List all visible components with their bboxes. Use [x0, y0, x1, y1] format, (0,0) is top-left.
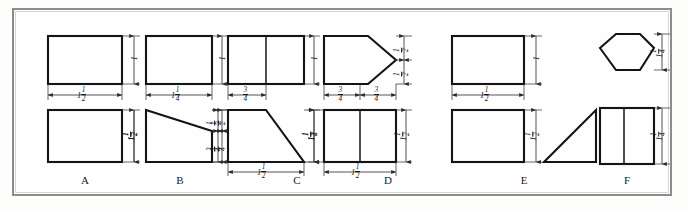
- group-d-dim-height-left-label: 114: [302, 132, 319, 141]
- group-c-dim-bottom-label: 112: [257, 163, 266, 180]
- group-d-label: D: [384, 174, 392, 186]
- group-e-drawing: E: [452, 36, 596, 186]
- group-b-front-view: [146, 110, 212, 162]
- group-a-front-view: [48, 110, 122, 162]
- group-f-top-view: [600, 34, 654, 70]
- group-b-label: B: [176, 174, 183, 186]
- group-b-top-view: [146, 36, 212, 84]
- group-c-drawing: C: [212, 36, 320, 186]
- group-d-dim-right-lower-label: 12: [393, 72, 410, 77]
- group-a-top-view: [48, 36, 122, 84]
- group-a-drawing: A: [48, 36, 140, 186]
- group-f-front-view: [600, 108, 654, 164]
- group-e-front-view-triangle: [544, 110, 596, 162]
- group-f-dim-height-top-label: 114: [650, 49, 667, 58]
- group-a-dim-width-label: 112: [77, 86, 86, 103]
- group-c-label: C: [293, 174, 300, 186]
- group-b-drawing: B: [134, 36, 228, 186]
- group-d-drawing: D: [308, 36, 412, 186]
- group-a-label: A: [81, 174, 89, 186]
- plate-drawing: A B: [0, 0, 688, 211]
- group-d-dim-right-upper-label: 12: [393, 48, 410, 53]
- group-d-top-view: [324, 36, 396, 84]
- group-d-dim-height-right-label: 112: [394, 132, 411, 141]
- group-e-front-view-rect: [452, 110, 524, 162]
- group-c-dim-left-upper-label: 12: [206, 121, 223, 126]
- group-e-label: E: [521, 174, 528, 186]
- drafting-plate: A B: [0, 0, 688, 211]
- group-b-dim-width-label: 114: [171, 86, 180, 103]
- group-c-front-view: [228, 110, 304, 162]
- group-f-label: F: [624, 174, 630, 186]
- group-d-dim-width-right-label: 34: [374, 86, 379, 103]
- group-c-dim-left-lower-label: 34: [206, 147, 223, 152]
- group-e-top-view: [452, 36, 524, 84]
- group-e-dim-height-top-label: 1: [532, 56, 541, 60]
- group-a-dim-height-top-label: 1: [130, 56, 139, 60]
- group-e-dim-width-label: 112: [480, 86, 489, 103]
- group-c-dim-height-top-label: 1: [310, 56, 319, 60]
- group-c-dim-half-width-label: 34: [243, 86, 248, 103]
- group-b-dim-height-top-label: 1: [218, 56, 227, 60]
- group-d-dim-bottom-label: 112: [351, 163, 360, 180]
- group-b-dim-left-tall-label: 112: [122, 132, 139, 141]
- group-f-dim-height-front-label: 114: [650, 132, 667, 141]
- group-d-dim-width-left-label: 34: [338, 86, 343, 103]
- group-e-dim-height-front-label: 112: [524, 132, 541, 141]
